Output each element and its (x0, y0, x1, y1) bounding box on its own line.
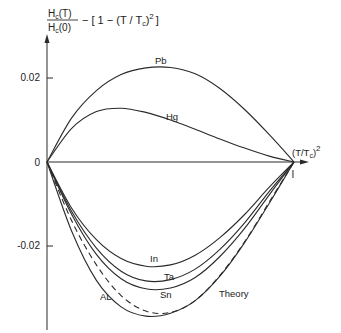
x-axis-label: (T/Tc)2 (292, 144, 321, 159)
y-tick-label: 0 (34, 157, 40, 168)
series-label-theory: Theory (219, 288, 249, 299)
series-label-pb: Pb (155, 55, 167, 66)
series-label-sn: Sn (160, 289, 172, 300)
ylabel-denominator: Hc(0) (48, 22, 71, 34)
series-label-in: In (150, 253, 158, 264)
curve-in (47, 162, 294, 267)
series-label-al: AL (100, 291, 112, 302)
ylabel-bracket-term: − [ 1 − (T / Tc)2] (82, 12, 159, 27)
ylabel-numerator: Hc(T) (48, 8, 72, 20)
series-label-ta: Ta (164, 271, 175, 282)
chart: Hc(T) Hc(0) − [ 1 − (T / Tc)2] 0.02 0 -0… (0, 0, 341, 333)
y-tick-label: 0.02 (21, 72, 41, 83)
axes (45, 34, 310, 330)
y-axis-arrow-icon (45, 34, 50, 43)
curve-ta (47, 162, 294, 282)
x-tick-label: I (292, 169, 295, 180)
series-label-hg: Hg (166, 111, 178, 122)
y-axis-label: Hc(T) Hc(0) − [ 1 − (T / Tc)2] (47, 8, 159, 34)
x-axis-arrow-icon (300, 160, 309, 165)
y-tick-label: -0.02 (17, 240, 40, 251)
